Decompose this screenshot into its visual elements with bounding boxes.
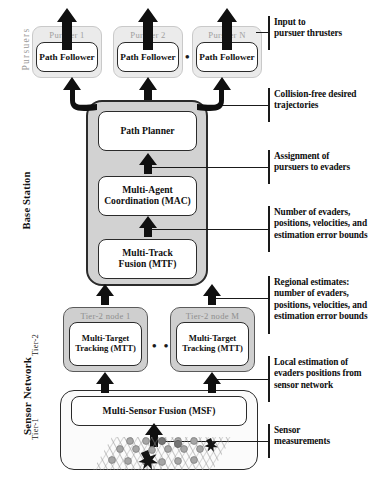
annotation-4-line2: number of evaders, [274, 288, 385, 299]
pursuer-n-path-follower-label: Path Follower [197, 52, 256, 62]
pursuer-2-path-follower[interactable]: Path Follower [117, 42, 179, 72]
annotation-input-to-pursuer-thrusters: Input to pursuer thrusters [274, 17, 382, 40]
leader-local-estimation [214, 379, 269, 380]
side-label-tier1: Tier-1 [30, 401, 40, 457]
path-planner-box[interactable]: Path Planner [98, 111, 197, 151]
msf-box[interactable]: Multi-Sensor Fusion (MSF) [71, 396, 247, 426]
annotation-local-estimation: Local estimation of evaders positions fr… [274, 357, 385, 391]
annotation-5-line3: sensor network [274, 380, 385, 391]
annotation-number-of-evaders: Number of evaders, positions, velocities… [274, 207, 385, 241]
tier2-node-1-title: Tier-2 node 1 [64, 311, 147, 321]
annotation-5-line2: evaders positions from [274, 368, 385, 379]
annotation-assignment-of-pursuers: Assignment of pursuers to evaders [274, 151, 384, 174]
annotation-3-line3: estimation error bounds [274, 230, 385, 241]
pursuer-1-title: Pursuer 1 [33, 30, 101, 40]
leader-regional-estimates [208, 298, 269, 299]
annotation-1-line2: trajectories [274, 100, 384, 111]
annotation-6-line1: Sensor [274, 425, 382, 436]
leader-collision-free [214, 105, 269, 106]
annotation-0-line2: pursuer thrusters [274, 28, 382, 39]
leader-input-thrusters [256, 32, 269, 33]
side-label-tier2: Tier-2 [30, 317, 40, 373]
diagram-canvas: Pursuers Base Station Sensor Network Tie… [0, 0, 385, 480]
annotation-3-line1: Number of evaders, [274, 207, 385, 218]
mtf-label-line2: Fusion (MTF) [117, 259, 179, 270]
annotation-regional-estimates: Regional estimates: number of evaders, p… [274, 277, 385, 322]
pursuer-2-title: Pursuer 2 [114, 30, 182, 40]
mac-box[interactable]: Multi-Agent Coordination (MAC) [98, 176, 197, 216]
leader-sensor-measurements [163, 441, 269, 442]
side-label-pursuers: Pursuers [21, 14, 31, 84]
annotation-6-line2: measurements [274, 436, 382, 447]
annotation-collision-free-desired-trajectories: Collision-free desired trajectories [274, 89, 384, 112]
leader-assignment [152, 167, 269, 168]
annotation-5-line1: Local estimation of [274, 357, 385, 368]
tier2-node-1-mtt[interactable]: Multi-Target Tracking (MTT) [69, 322, 142, 366]
tier2-node-m-mtt[interactable]: Multi-Target Tracking (MTT) [176, 322, 249, 366]
annotation-2-line2: pursuers to evaders [274, 162, 384, 173]
annotation-4-line3: positions, velocities, and [274, 300, 385, 311]
arrow-tier2-node-m-to-base [203, 284, 221, 305]
tier2-node-m-mtt-line2: Tracking (MTT) [180, 344, 245, 354]
pursuer-1-path-follower[interactable]: Path Follower [36, 42, 98, 72]
arrow-tier2-node-1-to-base [96, 284, 114, 305]
pursuer-n-title: Pursuer N [193, 30, 261, 40]
bracket-regional-estimates [268, 276, 270, 334]
arrow-trajectory-to-pursuer-2 [139, 77, 157, 100]
pursuer-2-path-follower-label: Path Follower [118, 52, 177, 62]
side-label-base-station: Base Station [21, 156, 32, 246]
path-planner-label: Path Planner [118, 126, 176, 137]
tier2-node-m-title: Tier-2 node M [171, 311, 254, 321]
annotation-4-line1: Regional estimates: [274, 277, 385, 288]
annotation-1-line1: Collision-free desired [274, 89, 384, 100]
annotation-sensor-measurements: Sensor measurements [274, 425, 382, 448]
mac-label-line2: Coordination (MAC) [102, 196, 193, 207]
annotation-3-line2: positions, velocities, and [274, 218, 385, 229]
pursuer-1-path-follower-label: Path Follower [37, 52, 96, 62]
leader-evader-estimates [152, 229, 269, 230]
pursuer-n-path-follower[interactable]: Path Follower [196, 42, 258, 72]
tier2-node-1-mtt-line2: Tracking (MTT) [73, 344, 138, 354]
annotation-4-line4: estimation error bounds [274, 311, 385, 322]
annotation-2-line1: Assignment of [274, 151, 384, 162]
annotation-0-line1: Input to [274, 17, 382, 28]
msf-label: Multi-Sensor Fusion (MSF) [101, 406, 218, 417]
mtf-box[interactable]: Multi-Track Fusion (MTF) [98, 239, 197, 279]
